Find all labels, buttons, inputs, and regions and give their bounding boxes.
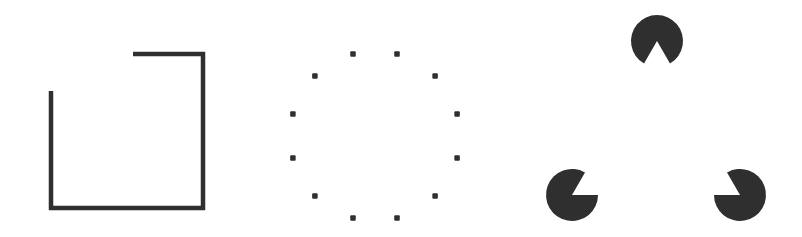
circle-dot (350, 51, 356, 57)
circle-dot (312, 193, 318, 199)
pacman-shape (714, 169, 766, 221)
circle-dot (290, 111, 296, 117)
pacman-shape (546, 169, 598, 221)
circle-dot (432, 193, 438, 199)
circle-dot (432, 73, 438, 79)
circle-dot (290, 155, 296, 161)
circle-dot (454, 111, 460, 117)
circle-dot (454, 155, 460, 161)
circle-dot (394, 215, 400, 221)
square-outline (51, 54, 203, 208)
incomplete-square (51, 54, 203, 208)
circle-dot (394, 51, 400, 57)
circle-dot (312, 73, 318, 79)
pacman-shape (631, 15, 683, 64)
closure-figure (0, 0, 802, 237)
dotted-circle (290, 51, 460, 221)
circle-dot (350, 215, 356, 221)
illusory-triangle (546, 15, 766, 221)
